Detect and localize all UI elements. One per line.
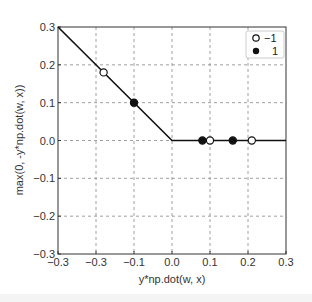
x-axis-label: y*np.dot(w, x) (139, 273, 206, 285)
x-tick-label: −0.1 (123, 256, 145, 268)
legend-open-circle-icon (253, 35, 259, 41)
hinge-loss-chart: −0.3−0.3−0.10.00.10.20.3−0.3−0.2−0.10.00… (0, 0, 312, 302)
y-tick-label: 0.2 (40, 59, 55, 71)
open-circle-marker (206, 137, 213, 144)
bottom-strip (0, 294, 312, 302)
y-axis-label: max(0, -y*np.dot(w, x)) (13, 85, 25, 196)
y-tick-label: −0.2 (33, 210, 55, 222)
legend-filled-circle-icon (253, 48, 259, 54)
legend: −1 1 (246, 31, 284, 58)
y-tick-label: 0.0 (40, 135, 55, 147)
x-tick-label: −0.3 (85, 256, 107, 268)
filled-circle-marker (229, 137, 236, 144)
y-tick-label: 0.1 (40, 97, 55, 109)
open-circle-marker (100, 69, 107, 76)
x-tick-label: 0.3 (278, 256, 293, 268)
x-tick-label: 0.2 (240, 256, 255, 268)
open-circle-marker (248, 137, 255, 144)
filled-circle-marker (130, 99, 137, 106)
filled-circle-marker (199, 137, 206, 144)
x-tick-label: 0.1 (202, 256, 217, 268)
legend-label-neg: −1 (264, 32, 277, 44)
x-tick-label: 0.0 (164, 256, 179, 268)
legend-label-pos: 1 (272, 45, 278, 57)
y-tick-label: 0.3 (40, 21, 55, 33)
y-tick-label: −0.1 (33, 172, 55, 184)
y-tick-label: −0.3 (33, 248, 55, 260)
data-markers (100, 69, 255, 144)
